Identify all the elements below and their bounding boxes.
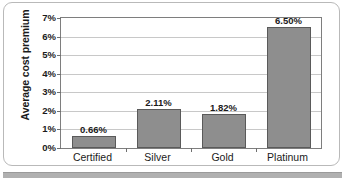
y-axis-tick-label: 6% bbox=[30, 30, 56, 41]
bar[interactable] bbox=[72, 136, 116, 148]
bar-value-label: 1.82% bbox=[210, 102, 237, 113]
bar-value-label: 0.66% bbox=[80, 124, 107, 135]
bar-slot: 1.82% bbox=[191, 18, 256, 148]
y-axis-tick-label: 4% bbox=[30, 67, 56, 78]
y-axis-tick-label: 0% bbox=[30, 142, 56, 153]
bar[interactable] bbox=[267, 27, 311, 148]
plot-area: 0.66%2.11%1.82%6.50% bbox=[60, 17, 322, 149]
bar[interactable] bbox=[202, 114, 246, 148]
x-axis-category-label: Certified bbox=[73, 151, 112, 163]
y-axis-tick-labels: 0%1%2%3%4%5%6%7% bbox=[30, 17, 56, 149]
y-axis-tick-label: 1% bbox=[30, 123, 56, 134]
bar[interactable] bbox=[137, 109, 181, 148]
bar-value-label: 6.50% bbox=[275, 15, 302, 26]
bar-slot: 0.66% bbox=[61, 18, 126, 148]
x-axis-category-label: Gold bbox=[211, 151, 233, 163]
y-axis-tick-label: 7% bbox=[30, 12, 56, 23]
bar-value-label: 2.11% bbox=[145, 97, 171, 108]
y-axis-tick-label: 3% bbox=[30, 86, 56, 97]
bar-slot: 6.50% bbox=[256, 18, 321, 148]
bottom-divider bbox=[3, 172, 342, 178]
y-axis-tick-label: 2% bbox=[30, 104, 56, 115]
x-axis-category-label: Platinum bbox=[267, 151, 308, 163]
y-axis-tick-label: 5% bbox=[30, 49, 56, 60]
y-axis-tick-mark bbox=[57, 148, 61, 149]
x-axis-category-label: Silver bbox=[144, 151, 170, 163]
figure-card: Average cost premium 0%1%2%3%4%5%6%7% 0.… bbox=[3, 2, 340, 166]
bar-slot: 2.11% bbox=[126, 18, 191, 148]
x-axis-category-labels: CertifiedSilverGoldPlatinum bbox=[60, 151, 322, 167]
